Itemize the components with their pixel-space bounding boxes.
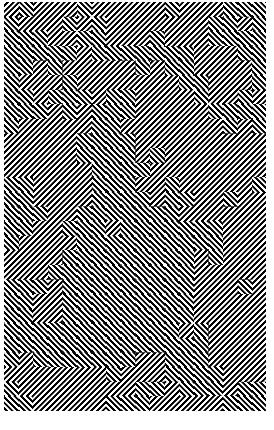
pattern-canvas-frame: Optical-illusion labyrinth formed by a g…: [0, 0, 274, 430]
truchet-pattern-canvas: [0, 0, 274, 430]
